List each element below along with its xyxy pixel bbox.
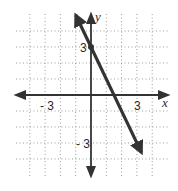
x-tick-pos3: 3 [134, 99, 141, 113]
y-tick-neg3: - 3 [76, 137, 90, 151]
coordinate-plane: y x - 3 3 3 - 3 [0, 0, 178, 191]
x-axis-label: x [161, 95, 168, 110]
y-axis-label: y [93, 9, 101, 24]
plotted-line [76, 15, 142, 153]
x-tick-neg3: - 3 [40, 99, 54, 113]
y-intercept-point [88, 44, 94, 50]
y-tick-pos3: 3 [80, 41, 87, 55]
